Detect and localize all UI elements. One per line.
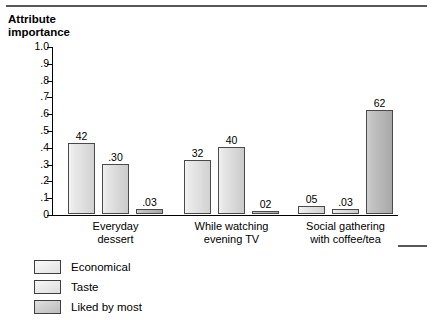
bar-value-label: 05 — [306, 193, 318, 205]
bar: .30 — [102, 164, 129, 214]
top-divider — [6, 5, 427, 7]
y-axis-tick-label: .1 — [40, 191, 49, 203]
x-axis-category-label: Social gathering with coffee/tea — [276, 220, 416, 245]
legend-item-label: Liked by most — [71, 301, 142, 313]
bar-value-label: 02 — [260, 198, 272, 210]
y-axis-tick-label: .8 — [40, 74, 49, 86]
right-divider — [398, 245, 427, 247]
y-axis-tick-label: .9 — [40, 57, 49, 69]
legend-item-label: Taste — [71, 281, 99, 293]
bar: 40 — [218, 147, 245, 214]
bar: 42 — [68, 143, 95, 214]
y-axis-tick-label: .5 — [40, 124, 49, 136]
series-swatch-economical — [34, 260, 61, 274]
y-axis-tick-label: .2 — [40, 174, 49, 186]
y-axis-tick-label: 0 — [43, 208, 49, 220]
legend-item: Taste — [34, 278, 142, 296]
bar-value-label: 32 — [192, 147, 204, 159]
legend-item: Economical — [34, 258, 142, 276]
y-axis-tick-label: .4 — [40, 141, 49, 153]
bar-value-label: 40 — [226, 134, 238, 146]
bar: 05 — [298, 206, 325, 214]
legend-item: Liked by most — [34, 298, 142, 316]
bar: 32 — [184, 160, 211, 214]
bar-value-label: .03 — [338, 196, 353, 208]
chart-legend: EconomicalTasteLiked by most — [34, 258, 142, 318]
y-axis-line — [52, 47, 53, 216]
bar-value-label: 62 — [374, 97, 386, 109]
chart-title: Attribute importance — [8, 13, 70, 39]
bar-value-label: 42 — [76, 130, 88, 142]
plot-area: 1.0.9.8.7.6.5.4.3.2.10 42.30.0332400205.… — [52, 47, 398, 215]
y-axis-tick-label: .3 — [40, 158, 49, 170]
bar: .03 — [332, 209, 359, 214]
bar: 62 — [366, 110, 393, 214]
bar-value-label: .03 — [142, 196, 157, 208]
bar: 02 — [252, 211, 279, 214]
bar-value-label: .30 — [108, 151, 123, 163]
legend-item-label: Economical — [71, 261, 130, 273]
y-axis-tick-label: .7 — [40, 90, 49, 102]
bar: .03 — [136, 209, 163, 214]
y-axis-tick-label: .6 — [40, 107, 49, 119]
x-axis-line — [52, 215, 398, 216]
y-axis-tick-label: 1.0 — [34, 40, 49, 52]
chart-page: Attribute importance 1.0.9.8.7.6.5.4.3.2… — [0, 0, 433, 320]
series-swatch-liked-by-most — [34, 300, 61, 314]
series-swatch-taste — [34, 280, 61, 294]
